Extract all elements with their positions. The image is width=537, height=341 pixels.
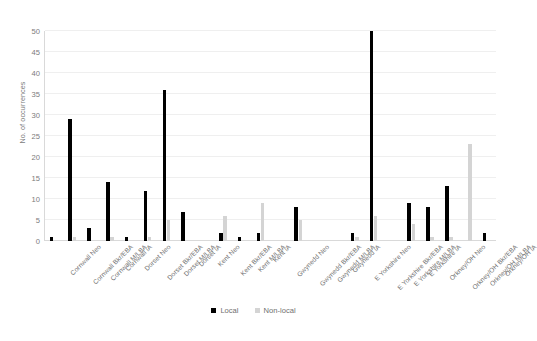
- legend-swatch-icon: [255, 308, 260, 313]
- bar-group: [82, 31, 101, 241]
- bar-local: [144, 191, 147, 241]
- bar-group: [477, 31, 496, 241]
- bar-nonlocal: [299, 220, 302, 241]
- chart-legend: LocalNon-local: [0, 306, 507, 315]
- legend-item-non-local[interactable]: Non-local: [255, 306, 296, 315]
- y-tick-label: 40: [6, 69, 40, 78]
- bar-nonlocal: [355, 237, 358, 241]
- bar-local: [351, 233, 354, 241]
- bar-nonlocal: [374, 216, 377, 241]
- x-tick-label: Gwynedd Neo: [296, 243, 331, 278]
- y-tick-label: 25: [6, 132, 40, 141]
- bar-group: [232, 31, 251, 241]
- bar-local: [181, 212, 184, 241]
- bar-local: [68, 119, 71, 241]
- bar-group: [327, 31, 346, 241]
- bar-local: [294, 207, 297, 241]
- legend-label: Non-local: [264, 306, 296, 315]
- bar-local: [163, 90, 166, 241]
- bar-group: [308, 31, 327, 241]
- bar-group: [270, 31, 289, 241]
- x-tick-label: Cornwall Neo: [69, 243, 102, 276]
- y-tick-label: 20: [6, 153, 40, 162]
- bar-local: [407, 203, 410, 241]
- y-tick-label: 30: [6, 111, 40, 120]
- bar-group: [383, 31, 402, 241]
- bar-nonlocal: [261, 203, 264, 241]
- bar-group: [440, 31, 459, 241]
- bars-layer: [44, 31, 496, 241]
- bar-local: [87, 228, 90, 241]
- bar-local: [445, 186, 448, 241]
- y-tick-label: 50: [6, 27, 40, 36]
- y-tick-label: 0: [6, 237, 40, 246]
- y-tick-label: 45: [6, 48, 40, 57]
- x-axis-labels: Cornwall NeoCornwall Bkr/EBACornwall M/L…: [44, 243, 496, 305]
- legend-swatch-icon: [211, 308, 216, 313]
- bar-local: [106, 182, 109, 241]
- bar-local: [125, 237, 128, 241]
- bar-group: [345, 31, 364, 241]
- bar-group: [364, 31, 383, 241]
- bar-group: [176, 31, 195, 241]
- bar-local: [257, 233, 260, 241]
- bar-local: [370, 31, 373, 241]
- legend-item-local[interactable]: Local: [211, 306, 238, 315]
- y-tick-label: 5: [6, 216, 40, 225]
- bar-group: [101, 31, 120, 241]
- bar-group: [458, 31, 477, 241]
- bar-local: [426, 207, 429, 241]
- bar-group: [119, 31, 138, 241]
- bar-nonlocal: [449, 237, 452, 241]
- legend-label: Local: [220, 306, 238, 315]
- bar-group: [44, 31, 63, 241]
- bar-nonlocal: [167, 220, 170, 241]
- bar-group: [195, 31, 214, 241]
- bar-nonlocal: [412, 224, 415, 241]
- bar-nonlocal: [110, 237, 113, 241]
- bar-local: [483, 233, 486, 241]
- bar-nonlocal: [73, 237, 76, 241]
- bar-local: [238, 237, 241, 241]
- bar-group: [214, 31, 233, 241]
- y-tick-label: 15: [6, 174, 40, 183]
- bar-group: [289, 31, 308, 241]
- bar-group: [157, 31, 176, 241]
- bar-nonlocal: [148, 237, 151, 241]
- bar-group: [138, 31, 157, 241]
- y-axis-ticks: 05101520253035404550: [0, 31, 40, 241]
- y-tick-label: 35: [6, 90, 40, 99]
- bar-nonlocal: [430, 237, 433, 241]
- bar-local: [50, 237, 53, 241]
- bar-group: [421, 31, 440, 241]
- bar-group: [251, 31, 270, 241]
- bar-nonlocal: [468, 144, 471, 241]
- bar-group: [402, 31, 421, 241]
- bar-nonlocal: [223, 216, 226, 241]
- bar-group: [63, 31, 82, 241]
- bar-local: [219, 233, 222, 241]
- y-tick-label: 10: [6, 195, 40, 204]
